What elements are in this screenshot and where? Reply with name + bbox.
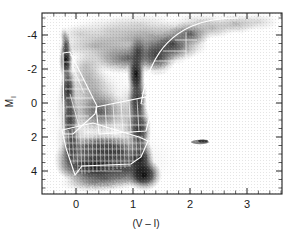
y-axis-title-subscript: I — [10, 96, 17, 98]
color-magnitude-diagram-figure: 0 1 2 3 -4 -2 0 2 4 (V – I) M I — [0, 0, 294, 236]
cmd-plot-svg: 0 1 2 3 -4 -2 0 2 4 (V – I) M I — [0, 0, 294, 236]
x-axis-title: (V – I) — [132, 218, 159, 229]
x-axis-title-text: (V – I) — [132, 218, 159, 229]
x-tick-label-1: 1 — [130, 198, 136, 210]
x-tick-label-0: 0 — [73, 198, 79, 210]
y-tick-label-4: 4 — [31, 165, 37, 177]
y-tick-label-2: 2 — [31, 131, 37, 143]
x-tick-labels: 0 1 2 3 — [73, 198, 250, 210]
y-tick-labels: -4 -2 0 2 4 — [27, 29, 37, 177]
y-axis-title: M I — [4, 96, 17, 107]
y-tick-label-minus2: -2 — [27, 63, 37, 75]
x-tick-label-3: 3 — [244, 198, 250, 210]
x-tick-label-2: 2 — [187, 198, 193, 210]
y-axis-title-base: M — [4, 99, 15, 107]
y-tick-label-minus4: -4 — [27, 29, 37, 41]
y-tick-label-0: 0 — [31, 97, 37, 109]
